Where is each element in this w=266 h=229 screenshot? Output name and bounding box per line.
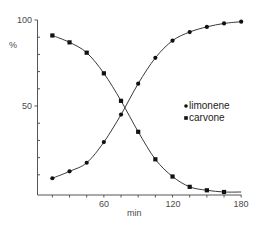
carvone-data-point bbox=[85, 51, 89, 55]
limonene-data-point bbox=[222, 21, 226, 25]
legend-carvone-label: carvone bbox=[189, 112, 225, 123]
limonene-data-point bbox=[50, 176, 54, 180]
limonene-data-point bbox=[119, 113, 123, 117]
limonene-data-point bbox=[239, 20, 243, 24]
carvone-data-point bbox=[188, 185, 192, 189]
limonene-data-point bbox=[153, 56, 157, 60]
line-chart: % min 50 100 60 120 180 limonene carvone bbox=[0, 0, 266, 229]
carvone-data-point bbox=[153, 157, 157, 161]
carvone-data-point bbox=[222, 190, 226, 194]
limonene-data-point bbox=[67, 169, 71, 173]
x-tick-label-120: 120 bbox=[165, 199, 180, 209]
carvone-data-point bbox=[102, 71, 106, 75]
limonene-data-point bbox=[102, 140, 106, 144]
y-tick-label-100: 100 bbox=[17, 15, 32, 25]
carvone-data-point bbox=[119, 99, 123, 103]
legend-limonene-label: limonene bbox=[189, 100, 230, 111]
limonene-data-point bbox=[136, 82, 140, 86]
limonene-data-point bbox=[188, 30, 192, 34]
legend: limonene carvone bbox=[184, 100, 230, 123]
limonene-data-point bbox=[170, 39, 174, 43]
carvone-data-point bbox=[170, 174, 174, 178]
y-axis-title: % bbox=[9, 40, 17, 50]
legend-carvone-marker-icon bbox=[184, 116, 188, 120]
x-axis-title: min bbox=[127, 208, 142, 218]
carvone-data-point bbox=[205, 188, 209, 192]
limonene-data-point bbox=[85, 161, 89, 165]
carvone-data-point bbox=[67, 40, 71, 44]
legend-limonene-marker-icon bbox=[184, 104, 188, 108]
carvone-data-point bbox=[136, 130, 140, 134]
x-tick-label-180: 180 bbox=[233, 199, 248, 209]
limonene-data-point bbox=[205, 25, 209, 29]
x-tick-label-60: 60 bbox=[99, 199, 109, 209]
y-tick-label-50: 50 bbox=[22, 101, 32, 111]
carvone-data-point bbox=[50, 33, 54, 37]
